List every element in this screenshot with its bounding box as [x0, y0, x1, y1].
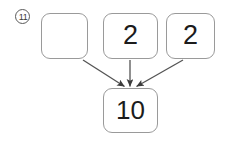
arrow-from-addend-3 [137, 60, 184, 87]
addend-box-2[interactable]: 2 [103, 13, 158, 59]
addend-value-2: 2 [123, 22, 138, 49]
addend-value-3: 2 [183, 22, 198, 49]
addend-box-1[interactable] [41, 13, 88, 59]
sum-box[interactable]: 10 [103, 88, 158, 133]
addend-box-3[interactable]: 2 [166, 13, 215, 59]
question-number-badge: 11 [14, 8, 34, 26]
arrow-from-addend-1 [83, 60, 125, 87]
question-number: 11 [19, 13, 27, 22]
diagram-canvas: 11 2 2 10 [0, 0, 228, 145]
sum-value: 10 [116, 97, 145, 123]
